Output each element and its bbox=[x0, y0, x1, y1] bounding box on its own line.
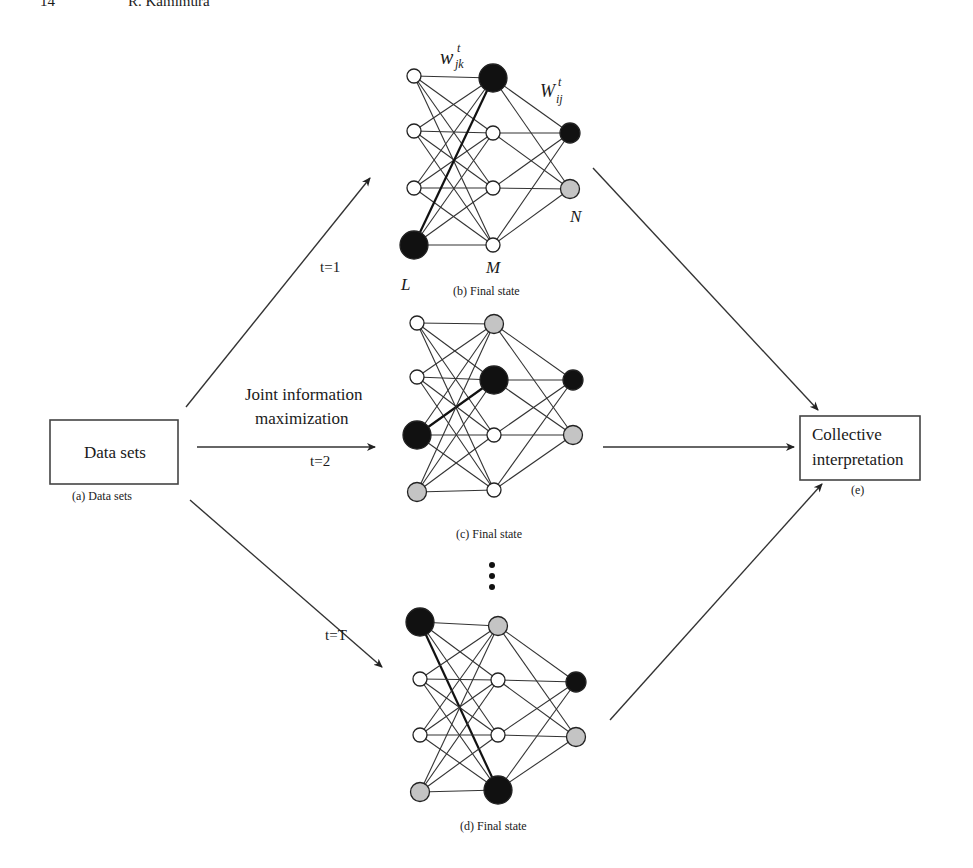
hidden-neuron-black-large bbox=[484, 776, 512, 804]
layer-label-M: M bbox=[485, 258, 501, 277]
input-neuron-white bbox=[407, 181, 421, 195]
arrow-tT bbox=[190, 500, 382, 667]
weight-wjk-subscript: jk bbox=[453, 57, 464, 71]
hidden-neuron-white bbox=[487, 428, 501, 442]
data-sets-label: Data sets bbox=[84, 443, 146, 462]
layer-label-L: L bbox=[400, 275, 410, 294]
input-neuron-gray bbox=[411, 783, 430, 802]
input-neuron-black-large bbox=[400, 231, 428, 259]
strong-connection-edge bbox=[420, 622, 498, 790]
connection-edge bbox=[417, 490, 494, 492]
output-neuron-black bbox=[563, 370, 583, 390]
network-d-caption: (d) Final state bbox=[460, 819, 527, 833]
input-neuron-white bbox=[407, 124, 421, 138]
weight-wjk-superscript: t bbox=[457, 41, 461, 55]
ellipsis-dot bbox=[489, 562, 495, 568]
output-neuron-gray bbox=[564, 426, 583, 445]
data-sets-caption: (a) Data sets bbox=[72, 489, 132, 503]
input-neuron-white bbox=[410, 316, 424, 330]
input-neuron-white bbox=[413, 728, 427, 742]
arrow-b-to-e bbox=[593, 168, 818, 410]
hidden-neuron-black-large bbox=[479, 64, 507, 92]
arrow-t2-label: t=2 bbox=[310, 453, 330, 469]
layer-label-N: N bbox=[569, 207, 583, 226]
input-neuron-white bbox=[410, 370, 424, 384]
network-c-caption: (c) Final state bbox=[456, 527, 522, 541]
input-neuron-white bbox=[407, 69, 421, 83]
connection-edge bbox=[420, 680, 498, 792]
hidden-neuron-white bbox=[491, 728, 505, 742]
hidden-neuron-gray bbox=[489, 617, 508, 636]
connection-edge bbox=[498, 682, 576, 735]
process-label-line1: Joint information bbox=[245, 385, 363, 404]
author-name: R. Kamimura bbox=[128, 0, 210, 9]
page-number: 14 bbox=[40, 0, 56, 9]
input-neuron-black-large bbox=[403, 421, 431, 449]
network-c bbox=[403, 315, 583, 502]
input-neuron-white bbox=[413, 672, 427, 686]
collective-label-line2: interpretation bbox=[812, 450, 904, 469]
connection-edge bbox=[498, 682, 576, 790]
weight-wij-superscript: t bbox=[558, 75, 562, 89]
connection-edge bbox=[494, 435, 573, 490]
hidden-neuron-white bbox=[486, 181, 500, 195]
weight-wjk-symbol: w bbox=[440, 46, 454, 68]
weight-label-wij: W t ij bbox=[540, 75, 563, 106]
collective-caption: (e) bbox=[851, 483, 864, 497]
hidden-neuron-gray bbox=[485, 315, 504, 334]
arrow-t1-label: t=1 bbox=[320, 259, 340, 275]
arrow-t1 bbox=[186, 178, 370, 407]
output-neuron-gray bbox=[561, 180, 580, 199]
hidden-neuron-black-large bbox=[480, 366, 508, 394]
output-neuron-gray bbox=[567, 728, 586, 747]
weight-wij-symbol: W bbox=[540, 81, 557, 101]
network-d bbox=[406, 608, 586, 804]
ellipsis-dots bbox=[489, 562, 495, 590]
connection-edge bbox=[417, 323, 494, 324]
hidden-neuron-white bbox=[487, 483, 501, 497]
input-neuron-black-large bbox=[406, 608, 434, 636]
output-neuron-black bbox=[566, 672, 586, 692]
process-label-line2: maximization bbox=[255, 409, 349, 428]
output-neuron-black bbox=[560, 123, 580, 143]
hidden-neuron-white bbox=[491, 673, 505, 687]
weight-label-wjk: w t jk bbox=[440, 41, 464, 71]
arrow-d-to-e bbox=[610, 484, 822, 720]
data-sets-node: Data sets (a) Data sets bbox=[50, 420, 178, 503]
input-neuron-gray bbox=[408, 483, 427, 502]
ellipsis-dot bbox=[489, 573, 495, 579]
hidden-neuron-white bbox=[486, 238, 500, 252]
connection-edge bbox=[493, 189, 570, 245]
connection-edge bbox=[498, 626, 576, 682]
weight-wij-subscript: ij bbox=[556, 92, 563, 106]
ellipsis-dot bbox=[489, 584, 495, 590]
collective-label-line1: Collective bbox=[812, 425, 882, 444]
arrow-tT-label: t=T bbox=[325, 627, 347, 643]
collective-interpretation-node: Collective interpretation (e) bbox=[800, 416, 920, 497]
diagram-canvas: 14 R. Kamimura Data sets (a) Data sets C… bbox=[0, 0, 973, 868]
network-b-caption: (b) Final state bbox=[453, 284, 520, 298]
hidden-neuron-white bbox=[486, 126, 500, 140]
